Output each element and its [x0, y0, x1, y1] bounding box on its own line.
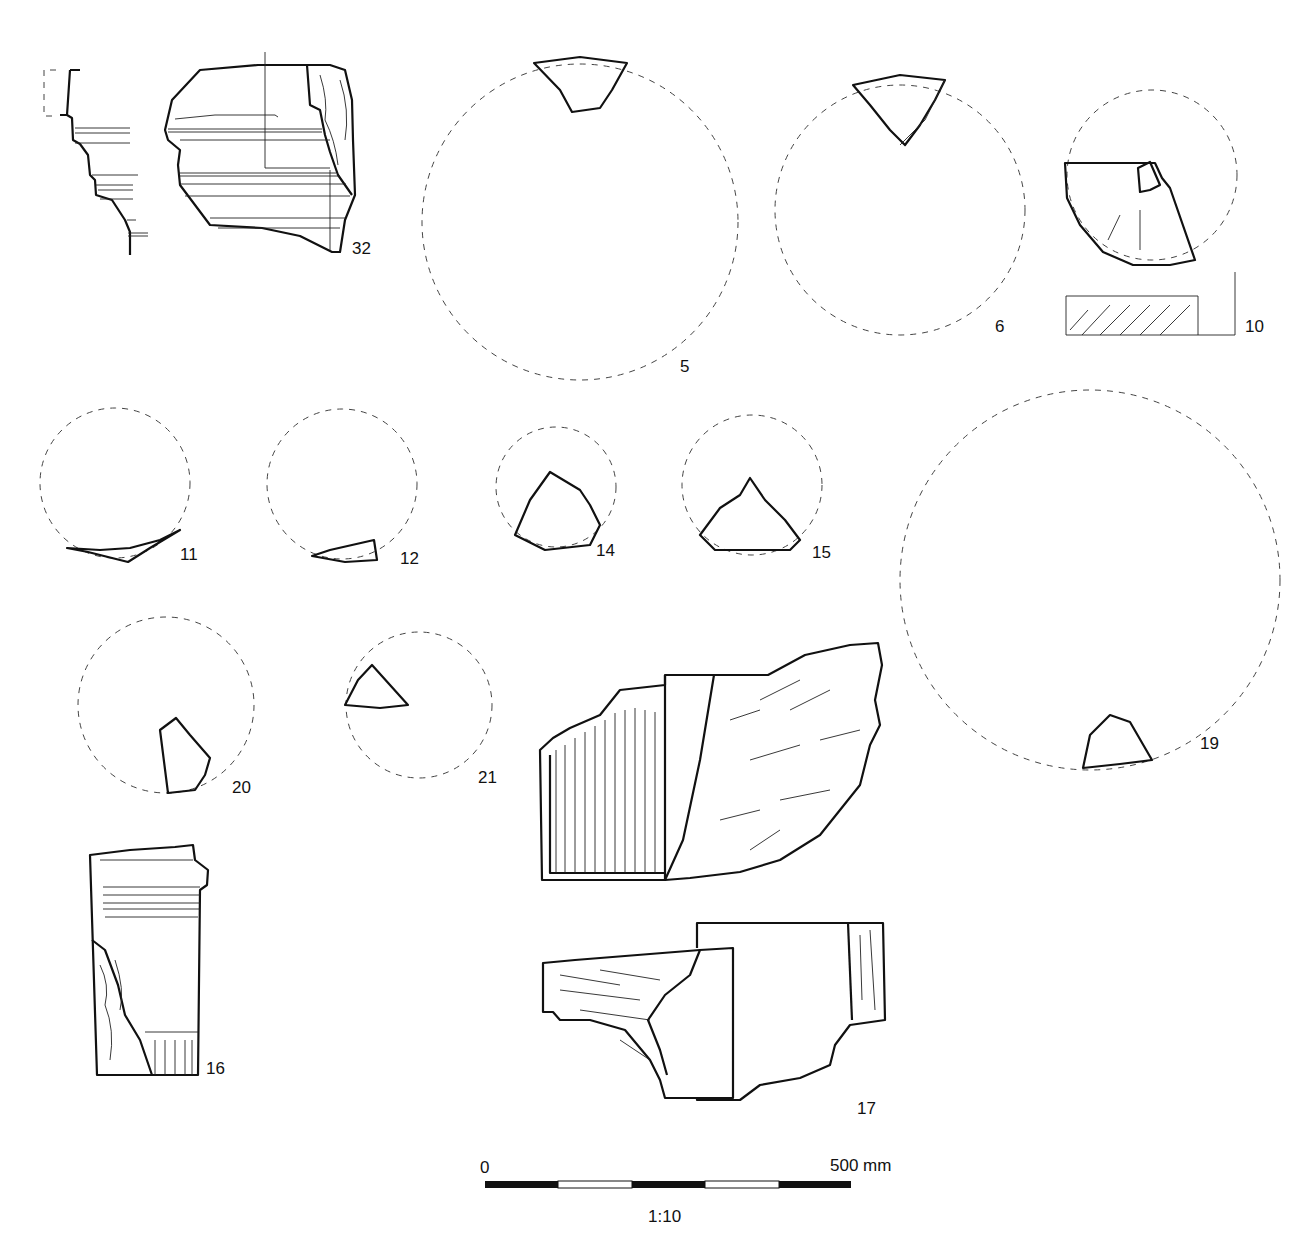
fragment-14 [496, 427, 616, 550]
label-10: 10 [1245, 318, 1264, 335]
label-17: 17 [857, 1100, 876, 1117]
label-21: 21 [478, 769, 497, 786]
fragment-19 [900, 390, 1280, 770]
fragment-15 [682, 415, 822, 555]
fragment-16 [90, 845, 208, 1075]
fragment-12 [267, 409, 417, 562]
label-6: 6 [995, 318, 1004, 335]
scale-end-label: 500 mm [830, 1157, 891, 1174]
fragment-21 [345, 632, 492, 778]
label-11: 11 [180, 546, 198, 563]
fragment-32 [44, 52, 355, 255]
fragment-10 [1065, 90, 1237, 335]
scale-bar [485, 1181, 851, 1188]
drawing-plate [0, 0, 1307, 1250]
label-12: 12 [400, 550, 419, 567]
label-14: 14 [596, 542, 615, 559]
label-32: 32 [352, 240, 371, 257]
fragment-11 [40, 408, 190, 562]
label-16: 16 [206, 1060, 225, 1077]
label-5: 5 [680, 358, 689, 375]
label-19: 19 [1200, 735, 1219, 752]
label-15: 15 [812, 544, 831, 561]
fragment-17-upper [540, 643, 882, 880]
fragment-17-lower [543, 923, 885, 1100]
fragment-6 [775, 75, 1025, 335]
scale-ratio-label: 1:10 [648, 1208, 681, 1225]
label-20: 20 [232, 779, 251, 796]
fragment-20 [78, 617, 254, 793]
scale-start-label: 0 [480, 1159, 489, 1176]
fragment-5 [422, 57, 738, 380]
